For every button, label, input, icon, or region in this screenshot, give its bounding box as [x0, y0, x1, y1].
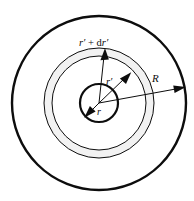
shell-outer-label: r′ + dr′	[79, 37, 109, 48]
prime-glyph-2: ′	[106, 37, 109, 48]
shell-inner-label: r′	[106, 76, 113, 87]
shell-outer-label-text: r′ + dr′	[79, 37, 109, 48]
core-label: r	[97, 106, 101, 117]
boundary-label: R	[151, 72, 159, 84]
diagram-canvas: r′ + dr′ r′ r R	[0, 0, 194, 201]
plus-glyph: +	[85, 37, 96, 48]
concentric-circles-figure: r′ + dr′ r′ r R	[0, 0, 194, 201]
